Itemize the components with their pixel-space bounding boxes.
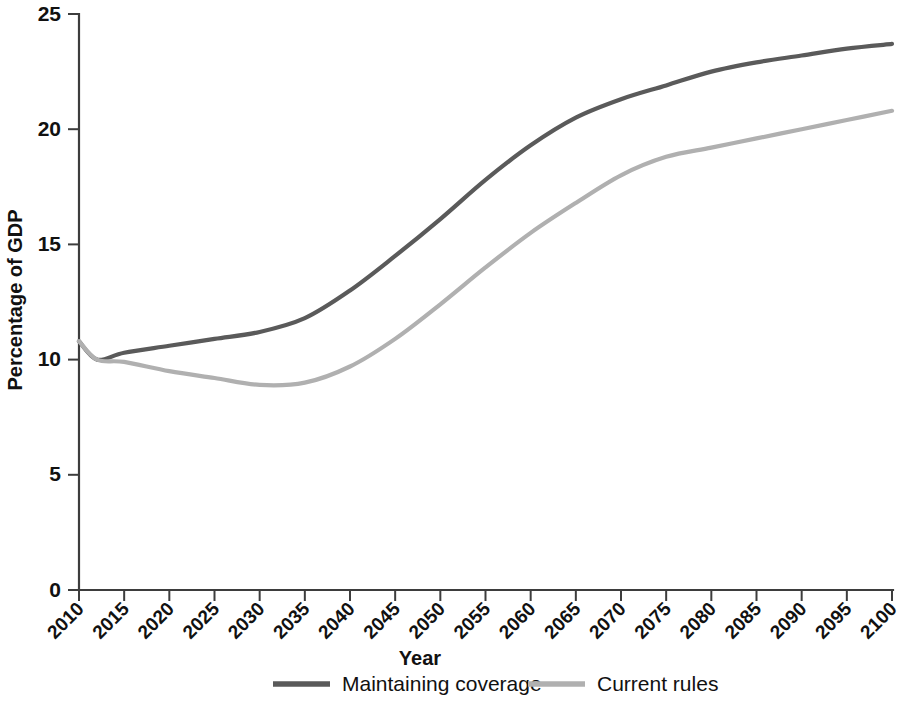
y-tick-label-25: 25 [38, 2, 62, 25]
y-axis-title: Percentage of GDP [4, 209, 26, 390]
y-tick-label-10: 10 [38, 347, 61, 370]
legend-label-current-rules: Current rules [597, 672, 718, 695]
y-tick-label-20: 20 [38, 117, 61, 140]
line-chart: Percentage of GDP 0510152025 20102015202… [0, 0, 908, 704]
y-tick-label-15: 15 [38, 232, 62, 255]
x-axis-title: Year [399, 647, 441, 669]
chart-figure: Percentage of GDP 0510152025 20102015202… [0, 0, 908, 704]
legend-label-maintaining-coverage: Maintaining coverage [342, 672, 542, 695]
y-tick-label-0: 0 [49, 578, 61, 601]
y-tick-label-5: 5 [49, 462, 61, 485]
